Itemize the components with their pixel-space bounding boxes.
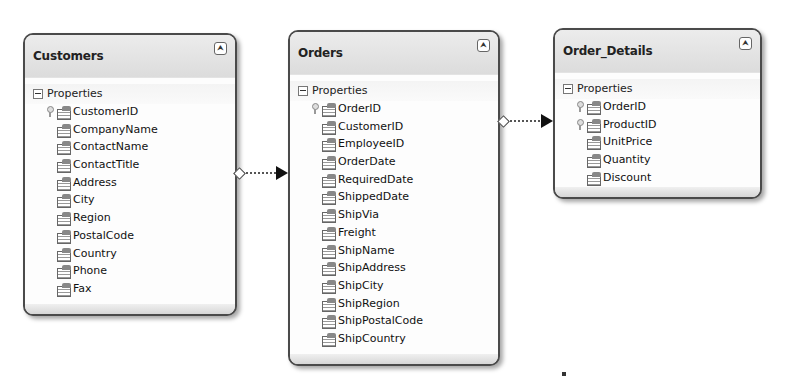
property-icon — [322, 262, 336, 274]
property-label: Quantity — [603, 153, 651, 166]
property-row[interactable]: ShipPostalCode — [290, 313, 498, 331]
property-label: EmployeeID — [338, 137, 404, 150]
property-label: OrderID — [603, 100, 646, 113]
minus-box-icon[interactable] — [33, 89, 43, 99]
minus-box-icon[interactable] — [298, 86, 308, 96]
entity-customers[interactable]: Customers ⮝ Properties CustomerID Compan… — [23, 33, 237, 316]
property-row[interactable]: RequiredDate — [290, 172, 498, 190]
section-label: Properties — [47, 87, 103, 100]
property-list: CustomerID CompanyName ContactName Conta… — [25, 104, 235, 299]
property-icon — [587, 154, 601, 166]
property-label: ShippedDate — [338, 190, 409, 203]
entity-title: Orders — [298, 46, 343, 60]
property-label: ContactName — [73, 140, 148, 153]
entity-orders[interactable]: Orders ⮝ Properties OrderID CustomerID E… — [288, 30, 500, 366]
property-label: Discount — [603, 171, 651, 184]
property-row[interactable]: Address — [25, 175, 235, 193]
property-row[interactable]: ShipName — [290, 243, 498, 261]
property-label: ShipVia — [338, 208, 379, 221]
property-row[interactable]: Phone — [25, 263, 235, 281]
property-row[interactable]: Discount — [555, 170, 760, 188]
property-row[interactable]: Region — [25, 210, 235, 228]
property-icon — [57, 248, 71, 260]
section-label: Properties — [312, 84, 368, 97]
property-row[interactable]: ShipCountry — [290, 331, 498, 349]
property-label: Phone — [73, 264, 107, 277]
relationship-customers-orders[interactable] — [243, 172, 279, 174]
key-icon — [47, 106, 53, 117]
property-label: ContactTitle — [73, 158, 139, 171]
property-icon — [57, 141, 71, 153]
property-row[interactable]: CustomerID — [25, 104, 235, 122]
property-label: ShipAddress — [338, 261, 406, 274]
property-label: CustomerID — [73, 105, 138, 118]
property-row[interactable]: ShipCity — [290, 278, 498, 296]
property-label: PostalCode — [73, 229, 134, 242]
collapse-icon[interactable]: ⮝ — [739, 37, 752, 50]
entity-footer — [555, 187, 760, 197]
relationship-orders-order-details[interactable] — [507, 120, 543, 122]
property-row[interactable]: ContactTitle — [25, 157, 235, 175]
arrowhead-icon — [541, 114, 553, 128]
entity-footer — [25, 304, 235, 314]
property-label: RequiredDate — [338, 173, 413, 186]
arrowhead-icon — [276, 166, 288, 180]
property-icon — [322, 191, 336, 203]
property-row[interactable]: ContactName — [25, 139, 235, 157]
property-label: ShipCity — [338, 279, 384, 292]
key-icon — [577, 101, 583, 112]
property-icon — [57, 230, 71, 242]
property-icon — [322, 227, 336, 239]
property-label: ProductID — [603, 118, 656, 131]
property-row[interactable]: OrderID — [555, 99, 760, 117]
property-row[interactable]: CompanyName — [25, 122, 235, 140]
entity-order-details[interactable]: Order_Details ⮝ Properties OrderID Produ… — [553, 28, 762, 199]
canvas-dot — [562, 372, 566, 376]
property-row[interactable]: ShipVia — [290, 207, 498, 225]
entity-header[interactable]: Order_Details ⮝ — [555, 30, 760, 73]
minus-box-icon[interactable] — [563, 84, 573, 94]
property-row[interactable]: Quantity — [555, 152, 760, 170]
property-icon — [587, 136, 601, 148]
key-icon — [312, 103, 318, 114]
property-icon — [587, 101, 601, 113]
property-row[interactable]: City — [25, 192, 235, 210]
property-row[interactable]: Fax — [25, 281, 235, 299]
property-row[interactable]: Country — [25, 246, 235, 264]
property-icon — [322, 156, 336, 168]
property-list: OrderID ProductID UnitPrice Quantity Dis… — [555, 99, 760, 187]
property-row[interactable]: CustomerID — [290, 119, 498, 137]
property-row[interactable]: PostalCode — [25, 228, 235, 246]
properties-section-header[interactable]: Properties — [290, 81, 498, 101]
property-icon — [57, 177, 71, 189]
collapse-icon[interactable]: ⮝ — [214, 42, 227, 55]
property-icon — [322, 280, 336, 292]
property-row[interactable]: ProductID — [555, 117, 760, 135]
collapse-icon[interactable]: ⮝ — [477, 39, 490, 52]
property-icon — [57, 106, 71, 118]
property-row[interactable]: Freight — [290, 225, 498, 243]
property-list: OrderID CustomerID EmployeeID OrderDate … — [290, 101, 498, 349]
property-label: OrderDate — [338, 155, 396, 168]
properties-section-header[interactable]: Properties — [25, 84, 235, 104]
entity-header[interactable]: Orders ⮝ — [290, 32, 498, 75]
property-icon — [57, 194, 71, 206]
property-label: Country — [73, 247, 117, 260]
property-row[interactable]: ShipRegion — [290, 296, 498, 314]
property-row[interactable]: ShipAddress — [290, 260, 498, 278]
properties-section-header[interactable]: Properties — [555, 79, 760, 99]
property-icon — [57, 212, 71, 224]
property-icon — [322, 315, 336, 327]
property-row[interactable]: UnitPrice — [555, 134, 760, 152]
section-label: Properties — [577, 82, 633, 95]
property-row[interactable]: OrderID — [290, 101, 498, 119]
property-icon — [322, 138, 336, 150]
property-row[interactable]: EmployeeID — [290, 136, 498, 154]
entity-header[interactable]: Customers ⮝ — [25, 35, 235, 78]
property-row[interactable]: OrderDate — [290, 154, 498, 172]
property-label: Address — [73, 176, 117, 189]
property-row[interactable]: ShippedDate — [290, 189, 498, 207]
property-icon — [587, 172, 601, 184]
property-label: ShipRegion — [338, 297, 400, 310]
property-label: Fax — [73, 282, 92, 295]
